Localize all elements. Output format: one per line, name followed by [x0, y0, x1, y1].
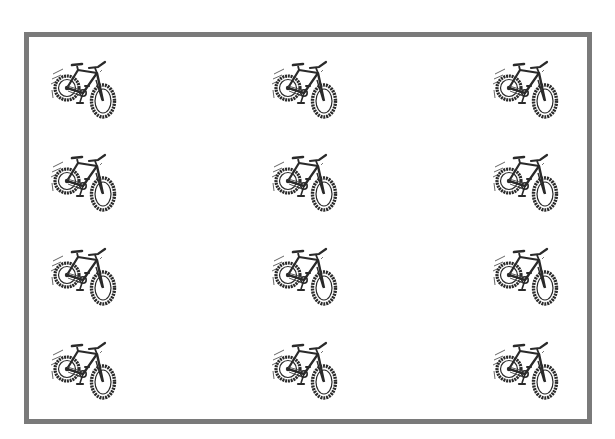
bicycle-icon [271, 247, 343, 307]
bicycle-icon [50, 341, 122, 401]
bicycle-icon [50, 247, 122, 307]
bicycle-icon [492, 247, 564, 307]
bicycle-icon [50, 153, 122, 213]
bicycle-icon [492, 153, 564, 213]
bicycle-icon [50, 60, 122, 120]
bicycle-icon [492, 60, 564, 120]
bicycle-icon [271, 60, 343, 120]
bicycle-icon [492, 341, 564, 401]
bicycle-icon [271, 341, 343, 401]
bicycle-icon [271, 153, 343, 213]
